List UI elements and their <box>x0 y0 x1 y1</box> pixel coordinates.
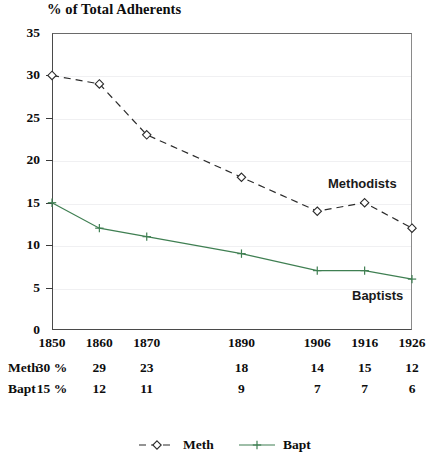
data-point-bapt <box>95 224 103 232</box>
x-tick-label: 1860 <box>86 335 113 351</box>
y-tick-label: 30 <box>14 67 40 83</box>
x-tick-label: 1890 <box>228 335 255 351</box>
data-point-meth <box>237 173 245 181</box>
table-cell: 18 <box>235 360 249 376</box>
annotation-baptists: Baptists <box>352 288 403 303</box>
x-tick-label: 1906 <box>304 335 331 351</box>
table-cell: 15 % <box>37 381 67 397</box>
y-tick-label: 15 <box>14 195 40 211</box>
y-tick-label: 5 <box>14 280 40 296</box>
data-table: Meth30 %292318141512Bapt15 %12119776 <box>0 360 425 402</box>
x-tick-label: 1916 <box>351 335 378 351</box>
legend-marker-open-diamond <box>137 438 177 452</box>
table-row-label: Bapt <box>8 381 36 397</box>
table-cell: 14 <box>311 360 325 376</box>
legend-label: Bapt <box>283 437 311 453</box>
table-row-label: Meth <box>8 360 39 376</box>
table-cell: 30 % <box>37 360 67 376</box>
data-point-meth <box>408 224 416 232</box>
data-point-meth <box>313 207 321 215</box>
data-point-bapt <box>408 275 416 283</box>
chart-title: % of Total Adherents <box>47 1 181 18</box>
data-point-meth <box>360 199 368 207</box>
legend-label: Meth <box>183 437 214 453</box>
legend-item-meth[interactable]: Meth <box>137 437 214 453</box>
table-cell: 23 <box>140 360 154 376</box>
table-row: Bapt15 %12119776 <box>0 381 425 402</box>
data-point-bapt <box>48 199 56 207</box>
x-tick-label: 1926 <box>399 335 426 351</box>
table-cell: 12 <box>405 360 419 376</box>
table-cell: 7 <box>361 381 368 397</box>
table-cell: 15 <box>358 360 372 376</box>
data-point-bapt <box>237 249 245 257</box>
data-point-bapt <box>313 266 321 274</box>
annotation-methodists: Methodists <box>328 176 397 191</box>
x-tick-label: 1850 <box>39 335 66 351</box>
table-cell: 11 <box>140 381 153 397</box>
y-tick-label: 20 <box>14 152 40 168</box>
x-tick-label: 1870 <box>133 335 160 351</box>
table-cell: 12 <box>93 381 107 397</box>
series-line-bapt <box>52 203 412 279</box>
y-tick-label: 25 <box>14 110 40 126</box>
data-point-bapt <box>360 266 368 274</box>
table-cell: 29 <box>93 360 107 376</box>
table-cell: 6 <box>409 381 416 397</box>
legend-item-bapt[interactable]: Bapt <box>237 437 311 453</box>
table-cell: 7 <box>314 381 321 397</box>
y-tick-label: 0 <box>14 322 40 338</box>
series-line-meth <box>52 75 412 228</box>
y-tick-label: 35 <box>14 25 40 41</box>
table-row: Meth30 %292318141512 <box>0 360 425 381</box>
y-tick-label: 10 <box>14 237 40 253</box>
chart-legend: MethBapt <box>0 437 425 457</box>
data-point-meth <box>48 71 56 79</box>
legend-marker-plus <box>237 438 277 452</box>
data-point-bapt <box>143 232 151 240</box>
table-cell: 9 <box>238 381 245 397</box>
